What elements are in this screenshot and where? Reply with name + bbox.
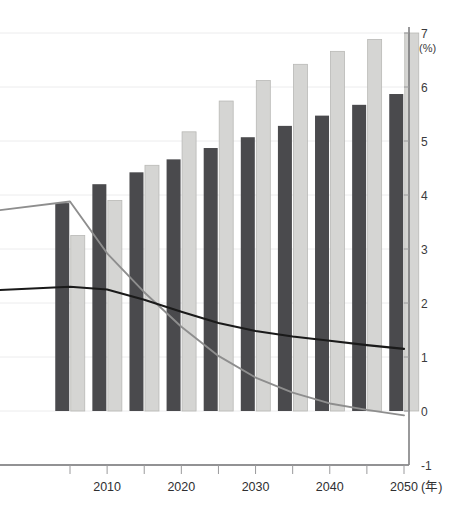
bar-line-combo-chart: 76543210-1 20102020203020402050(年) (%) (0, 0, 473, 511)
y-tick-label: 3 (421, 243, 428, 257)
y-tick-label: 6 (421, 81, 428, 95)
chart-container: 76543210-1 20102020203020402050(年) (%) (0, 0, 473, 511)
y-tick-label: 1 (421, 351, 428, 365)
bar-light (293, 64, 307, 411)
bar-light (71, 236, 85, 412)
y-tick-label: -1 (421, 459, 432, 473)
bar-dark (167, 159, 181, 411)
bar-light (405, 33, 419, 411)
bar-light (219, 101, 233, 411)
x-tick-label: 2010 (93, 480, 121, 494)
y-tick-label: 2 (421, 297, 428, 311)
x-tick-label: 2030 (242, 480, 270, 494)
bar-dark (92, 184, 106, 411)
bar-light (145, 165, 159, 411)
unit-labels-group: (%) (419, 42, 436, 54)
y-tick-label: 4 (421, 189, 428, 203)
bar-light (256, 81, 270, 411)
bar-dark (204, 148, 218, 411)
y-tick-labels-group: 76543210-1 (421, 27, 432, 473)
x-axis-unit-label: (年) (421, 480, 442, 494)
bar-light (108, 200, 122, 411)
y-tick-label: 7 (421, 27, 428, 41)
x-tick-label: 2040 (316, 480, 344, 494)
bar-light (368, 39, 382, 411)
y-axis-unit-label: (%) (419, 42, 436, 54)
bar-dark (352, 105, 366, 411)
x-tick-label: 2020 (167, 480, 195, 494)
y-tick-label: 0 (421, 405, 428, 419)
bar-light (331, 51, 345, 411)
bar-dark (55, 203, 69, 411)
y-tick-label: 5 (421, 135, 428, 149)
bar-dark (315, 116, 329, 411)
x-tick-label: 2050 (390, 480, 418, 494)
x-tick-labels-group: 20102020203020402050(年) (93, 480, 442, 494)
bar-dark (389, 94, 403, 411)
bar-dark (129, 172, 143, 411)
bar-dark (278, 126, 292, 411)
bar-light (182, 132, 196, 411)
